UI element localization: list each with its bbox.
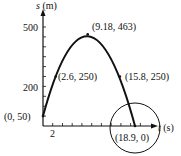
annotation-end: (18.9, 0) bbox=[115, 132, 149, 144]
point-peak bbox=[86, 33, 89, 36]
highlight-circle bbox=[110, 103, 160, 153]
annotation-start: (0, 50) bbox=[4, 111, 31, 123]
annotation-rising: (2.6, 250) bbox=[58, 71, 97, 83]
x-axis-arrow-icon bbox=[151, 124, 158, 129]
trajectory-chart: s (m) t (s) 500 200 2 (0, 50) (2.6, 250)… bbox=[0, 0, 181, 156]
y-tick-label-500: 500 bbox=[23, 22, 38, 33]
x-axis-label: t (s) bbox=[158, 122, 174, 134]
point-start bbox=[42, 115, 45, 118]
point-rising bbox=[54, 75, 57, 78]
y-tick-label-200: 200 bbox=[23, 82, 38, 93]
point-falling bbox=[119, 75, 122, 78]
annotation-peak: (9.18, 463) bbox=[92, 21, 136, 33]
annotation-falling: (15.8, 250) bbox=[125, 71, 169, 83]
x-tick-label-2: 2 bbox=[50, 128, 55, 139]
point-end bbox=[134, 125, 137, 128]
y-axis-label: s (m) bbox=[36, 0, 57, 12]
